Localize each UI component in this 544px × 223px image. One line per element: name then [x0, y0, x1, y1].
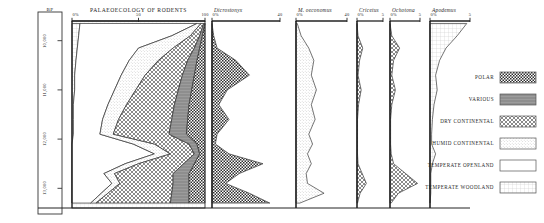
legend-swatch-temperate-woodland [500, 182, 536, 193]
xtick-m-oeconomus-1: 40 [345, 12, 350, 17]
legend-label-polar: POLAR [0, 74, 494, 80]
legend-swatch-dry-continental [500, 116, 536, 127]
depth-tick-11000: 11,000 [42, 83, 47, 97]
depth-tick-10000: 10,000 [42, 34, 47, 48]
legend-label-temperate-openland: TEMPERATE OPENLAND [0, 162, 494, 168]
taxon-curve-apodemus [430, 23, 467, 203]
taxon-title-dicrostonyx: Dicrostonyx [214, 7, 242, 13]
xtick-ochotona-1: 5 [419, 12, 421, 17]
legend-label-various: VARIOUS [0, 96, 494, 102]
xtick-apodemus-1: 5 [469, 12, 471, 17]
xtick-main-2: 100 [201, 12, 208, 17]
legend-swatch-polar [500, 72, 536, 83]
xtick-dicrostonyx-0: 0% [213, 12, 219, 17]
taxon-curve-m-oeconomus [296, 23, 324, 203]
xtick-dicrostonyx-1: 40 [278, 12, 283, 17]
legend-swatch-humid-continental [500, 138, 536, 149]
taxon-curve-dicrostonyx [212, 23, 270, 203]
xtick-cricetus-0: 0% [358, 12, 364, 17]
xtick-m-oeconomus-0: 0% [297, 12, 303, 17]
legend-label-humid-continental: HUMID CONTINENTAL [0, 140, 494, 146]
xtick-main-1: 50 [136, 12, 141, 17]
taxon-curve-cricetus [357, 23, 366, 203]
taxon-title-cricetus: Cricetus [359, 7, 379, 13]
legend-label-dry-continental: DRY CONTINENTAL [0, 118, 494, 124]
rodent-palaeoecology-figure: PALAEOECOLOGY OF RODENTS BP 10,00011,000… [0, 0, 544, 223]
xtick-main-0: 0% [73, 12, 79, 17]
xtick-ochotona-0: 0% [391, 12, 397, 17]
legend-swatch-temperate-openland [500, 160, 536, 171]
xtick-cricetus-1: 5 [382, 12, 384, 17]
legend-label-temperate-woodland: TEMPERATE WOODLAND [0, 184, 494, 190]
taxon-title-apodemus: Apodemus [432, 7, 456, 13]
taxon-title-m-oeconomus: M. oeconomus [298, 7, 332, 13]
depth-axis-header: BP [47, 7, 54, 12]
xtick-apodemus-0: 0% [431, 12, 437, 17]
legend-swatch-various [500, 94, 536, 105]
taxon-title-ochotona: Ochotona [392, 7, 415, 13]
taxon-curve-ochotona [390, 23, 418, 203]
